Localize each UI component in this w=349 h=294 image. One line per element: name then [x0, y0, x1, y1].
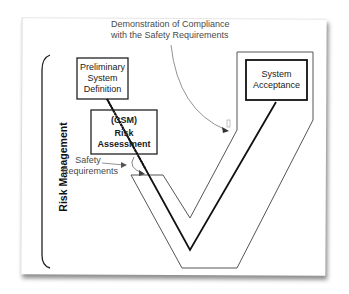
safety-curve	[132, 157, 143, 173]
risk-assessment-box-text: (CSM) Risk Assessment	[91, 115, 157, 150]
safety-requirements-label: Safety Requirements	[62, 155, 114, 177]
risk-management-bracket	[42, 55, 50, 268]
system-acceptance-box-text: System Acceptance	[246, 69, 307, 91]
demonstration-marker	[227, 120, 230, 127]
demonstration-arrowhead	[222, 127, 229, 133]
demonstration-label: Demonstration of Compliance with the Saf…	[111, 19, 230, 41]
preliminary-box-text: Preliminary System Definition	[77, 62, 128, 95]
demonstration-arrow	[171, 45, 226, 130]
v-model-diagram	[0, 0, 349, 294]
